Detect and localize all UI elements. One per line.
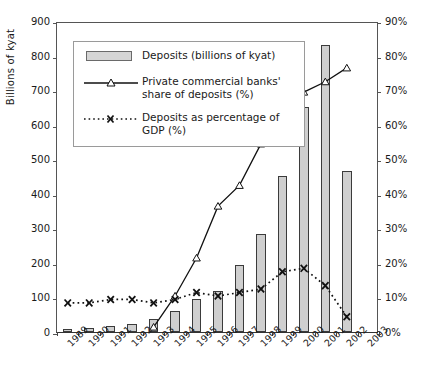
y-tick-label-left: 0 bbox=[16, 327, 50, 338]
legend-label-deposits: Deposits (billions of kyat) bbox=[142, 49, 275, 62]
legend-item-bank-share: Private commercial banks' share of depos… bbox=[82, 75, 296, 100]
line-x-dotted-icon bbox=[82, 111, 142, 126]
triangle-marker bbox=[322, 78, 330, 85]
y-tick-label-right: 40% bbox=[385, 189, 419, 200]
triangle-marker bbox=[236, 182, 244, 189]
legend-key-bar-swatch bbox=[82, 49, 142, 64]
plot-area: 1989199019911992199319941995199619971998… bbox=[56, 22, 378, 333]
y-tick-label-right: 50% bbox=[385, 154, 419, 165]
chart-legend: Deposits (billions of kyat) Private comm… bbox=[73, 41, 305, 147]
y-tick-label-right: 60% bbox=[385, 120, 419, 131]
line-triangle-icon bbox=[82, 75, 142, 90]
y-tick-label-left: 200 bbox=[16, 258, 50, 269]
y-tick-label-right: 20% bbox=[385, 258, 419, 269]
bar-swatch-icon bbox=[86, 51, 132, 61]
x-marker bbox=[344, 313, 350, 320]
x-marker bbox=[129, 296, 135, 303]
y-tick-label-left: 300 bbox=[16, 223, 50, 234]
y-tick-label-left: 600 bbox=[16, 120, 50, 131]
x-marker bbox=[215, 293, 221, 300]
x-marker bbox=[322, 282, 328, 289]
legend-key-line-x-dotted bbox=[82, 111, 142, 126]
y-tick-label-left: 700 bbox=[16, 85, 50, 96]
y-tick-label-left: 400 bbox=[16, 189, 50, 200]
x-marker bbox=[301, 265, 307, 272]
y-tick-label-right: 70% bbox=[385, 85, 419, 96]
y-tick-label-right: 0% bbox=[385, 327, 419, 338]
y-tick-label-right: 90% bbox=[385, 16, 419, 27]
legend-item-deposits: Deposits (billions of kyat) bbox=[82, 49, 296, 64]
legend-item-gdp-share: Deposits as percentage of GDP (%) bbox=[82, 111, 296, 136]
line-path bbox=[68, 268, 347, 316]
y-tick-label-right: 10% bbox=[385, 292, 419, 303]
legend-label-bank-share: Private commercial banks' share of depos… bbox=[142, 75, 296, 100]
x-marker bbox=[65, 300, 71, 307]
x-marker bbox=[258, 286, 264, 293]
triangle-marker bbox=[193, 254, 201, 261]
legend-key-line-triangle bbox=[82, 75, 142, 90]
x-marker bbox=[86, 300, 92, 307]
y-tick-label-left: 500 bbox=[16, 154, 50, 165]
triangle-marker bbox=[343, 64, 351, 71]
legend-label-gdp-share: Deposits as percentage of GDP (%) bbox=[142, 111, 296, 136]
y-tick-label-left: 100 bbox=[16, 292, 50, 303]
y-tick-label-left: 800 bbox=[16, 51, 50, 62]
y-tick-label-left: 900 bbox=[16, 16, 50, 27]
y-tick-label-right: 80% bbox=[385, 51, 419, 62]
y-tick-label-right: 30% bbox=[385, 223, 419, 234]
chart-figure: Billions of kyat 01002003004005006007008… bbox=[0, 0, 426, 382]
